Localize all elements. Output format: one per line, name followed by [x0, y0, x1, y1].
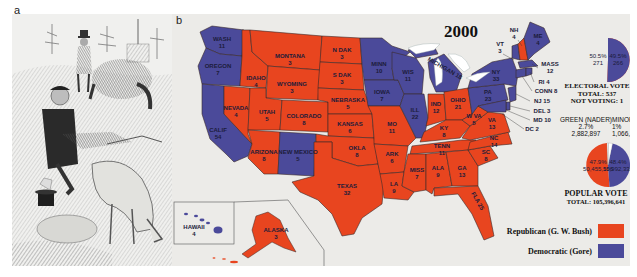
svg-text:11: 11: [219, 43, 226, 49]
svg-text:VA: VA: [488, 117, 497, 123]
svg-text:S DAK: S DAK: [333, 72, 352, 78]
svg-text:ALA: ALA: [432, 165, 445, 171]
svg-text:13: 13: [459, 172, 466, 178]
popular-vote-heading: POPULAR VOTE: [562, 190, 630, 198]
svg-text:IOWA: IOWA: [374, 89, 391, 95]
svg-text:MISS: MISS: [410, 167, 425, 173]
svg-text:ME: ME: [534, 33, 543, 39]
svg-text:48.4%: 48.4%: [609, 159, 627, 165]
svg-text:CONN 8: CONN 8: [535, 88, 558, 94]
svg-text:VT: VT: [496, 41, 504, 47]
svg-text:50.5%: 50.5%: [589, 53, 607, 59]
svg-text:11: 11: [389, 128, 396, 134]
popular-vote-pie: 47.9% 50,455,156 48.4% 50,992,335: [583, 143, 630, 187]
svg-text:4: 4: [512, 34, 516, 40]
svg-text:W VA: W VA: [466, 113, 482, 119]
republican-swatch: [598, 224, 624, 238]
svg-text:TEXAS: TEXAS: [337, 183, 357, 189]
svg-text:DC 2: DC 2: [525, 126, 539, 132]
svg-text:GA: GA: [458, 165, 468, 171]
svg-text:54: 54: [215, 134, 222, 140]
svg-text:50,992,335: 50,992,335: [603, 166, 630, 172]
state-mass: [518, 60, 538, 68]
state-alaska: [242, 212, 296, 258]
svg-text:11: 11: [405, 76, 412, 82]
panel-b-label: b: [176, 14, 182, 26]
svg-text:47.9%: 47.9%: [589, 159, 607, 165]
monument-icon: [127, 44, 149, 62]
svg-text:NC: NC: [490, 135, 499, 141]
svg-text:OREGON: OREGON: [205, 63, 232, 69]
svg-text:12: 12: [433, 108, 440, 114]
svg-text:49.5%: 49.5%: [609, 53, 627, 59]
state-fla: [434, 186, 494, 240]
svg-text:MONTANA: MONTANA: [275, 53, 306, 59]
svg-text:COLORADO: COLORADO: [287, 113, 322, 119]
inset-hawaii: [174, 202, 234, 244]
svg-text:32: 32: [344, 190, 351, 196]
svg-text:ILL: ILL: [411, 107, 420, 113]
svg-text:LA: LA: [390, 181, 399, 187]
cartoon-illustration: [12, 14, 172, 266]
svg-text:23: 23: [485, 96, 492, 102]
svg-text:OHIO: OHIO: [450, 97, 466, 103]
svg-text:ARIZONA: ARIZONA: [250, 149, 278, 155]
green-nader-note: GREEN (NADER) 2.7% 2,882,897: [568, 116, 604, 137]
election-map-panel: WASH11 OREGON7 CALIF54 NEVADA4 IDAHO4 MO…: [172, 14, 630, 266]
svg-text:33: 33: [493, 76, 500, 82]
legend-democratic: Democratic (Gore): [528, 244, 624, 258]
svg-text:22: 22: [412, 114, 419, 120]
svg-text:OKLA: OKLA: [349, 145, 367, 151]
svg-text:11: 11: [439, 150, 446, 156]
svg-text:3: 3: [498, 48, 502, 54]
svg-text:NH: NH: [510, 27, 519, 33]
svg-text:KY: KY: [440, 125, 448, 131]
svg-text:MD 10: MD 10: [533, 117, 551, 123]
svg-text:IND: IND: [431, 101, 442, 107]
state-del: [506, 102, 510, 110]
svg-text:PA: PA: [484, 89, 493, 95]
legend-republican: Republican (G. W. Bush): [507, 224, 624, 238]
svg-text:NY: NY: [492, 69, 500, 75]
svg-text:4: 4: [192, 231, 196, 237]
electoral-vote-not-voting: NOT VOTING: 1: [564, 98, 630, 106]
svg-text:14: 14: [491, 142, 498, 148]
svg-text:NEVADA: NEVADA: [224, 105, 250, 111]
svg-text:MINN: MINN: [371, 61, 386, 67]
svg-text:271: 271: [593, 60, 604, 66]
state-nj: [508, 86, 516, 102]
svg-text:12: 12: [547, 68, 554, 74]
svg-text:WYOMING: WYOMING: [277, 81, 307, 87]
svg-text:DEL 3: DEL 3: [534, 108, 552, 114]
svg-text:WIS: WIS: [402, 69, 413, 75]
democratic-swatch: [598, 244, 624, 258]
svg-text:KANSAS: KANSAS: [337, 121, 362, 127]
electoral-vote-pie: 50.5% 271 49.5% 266: [589, 38, 629, 82]
svg-text:266: 266: [613, 60, 624, 66]
svg-text:NJ 15: NJ 15: [534, 98, 551, 104]
svg-text:MO: MO: [387, 121, 397, 127]
svg-text:ARK: ARK: [386, 151, 400, 157]
svg-text:TENN: TENN: [434, 143, 450, 149]
svg-text:N DAK: N DAK: [333, 47, 353, 53]
map-title: 2000: [444, 22, 478, 42]
electoral-vote-summary: ELECTORAL VOTE TOTAL: 537 NOT VOTING: 1: [564, 83, 630, 106]
svg-text:MASS: MASS: [541, 61, 558, 67]
svg-text:CALIF: CALIF: [209, 127, 227, 133]
popular-vote-summary: POPULAR VOTE TOTAL: 105,396,641: [562, 190, 630, 206]
svg-text:HAWAII: HAWAII: [183, 224, 205, 230]
svg-text:10: 10: [376, 68, 383, 74]
svg-text:NEBRASKA: NEBRASKA: [331, 97, 366, 103]
svg-text:21: 21: [455, 104, 462, 110]
label-wash: WASH: [213, 36, 231, 42]
svg-text:ALASKA: ALASKA: [264, 227, 290, 233]
popular-vote-total: TOTAL: 105,396,641: [562, 198, 630, 206]
svg-text:RI 4: RI 4: [538, 79, 550, 85]
svg-text:NEW MEXICO: NEW MEXICO: [278, 149, 318, 155]
state-conn: [516, 68, 526, 78]
svg-text:UTAH: UTAH: [259, 109, 275, 115]
svg-text:SC: SC: [482, 149, 491, 155]
minor-note: MINOR 1% 1,066,253: [612, 116, 630, 137]
svg-text:IDAHO: IDAHO: [246, 75, 266, 81]
svg-text:13: 13: [489, 124, 496, 130]
